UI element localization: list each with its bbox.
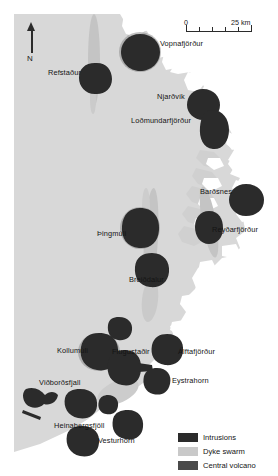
legend-label-central-volcano: Central volcano — [203, 461, 256, 470]
intrusion-heinabergsfjoll-small — [98, 395, 118, 414]
north-arrow-shaft-icon — [31, 28, 33, 53]
map-label-vesturhorn: Vesturhorn — [98, 437, 135, 444]
legend-item-central-volcano: Central volcano — [178, 459, 274, 472]
map-label-eystrahorn: Eystrahorn — [172, 377, 209, 384]
map-label-breiddalur: Breiðdalur — [129, 276, 164, 283]
legend-item-intrusions: Intrusions — [178, 431, 274, 444]
legend-swatch-intrusions — [178, 433, 198, 442]
intrusion-refstadur — [79, 63, 112, 94]
map-label-bardsnes: Barðsnes — [200, 188, 232, 195]
map-label-vopnafjordur: Vopnafjörður — [160, 40, 203, 47]
scale-bar: 0 25 km — [186, 18, 252, 38]
intrusion-vopnafjordur — [121, 34, 160, 71]
map-label-vidbordsfjall: Viðborðsfjall — [39, 379, 80, 386]
scale-bar-tick-1 — [199, 27, 200, 32]
intrusion-bardsnes — [229, 184, 264, 216]
scale-bar-max-label: 25 km — [231, 18, 251, 27]
north-arrow: N — [24, 22, 40, 68]
map-label-flugustadir: Flugustaðir — [112, 348, 150, 355]
map-label-heinabergsfjoll: Heinabergsfjöll — [54, 422, 104, 429]
legend-item-dyke-swarm: Dyke swarm — [178, 445, 274, 458]
map-figure: N 0 25 km Vopnafjörður Refstaður Njarðví… — [0, 0, 278, 476]
scale-bar-tick-0 — [186, 25, 187, 32]
map-label-kollumuli: Kollumúli — [57, 347, 88, 354]
map-label-alftafjordur: Álftafjörður — [178, 348, 215, 355]
legend-swatch-central-volcano — [178, 461, 198, 470]
intrusion-thingmuli — [122, 208, 159, 248]
map-label-reydarfjordur: Reyðarfjörður — [212, 226, 258, 233]
scale-bar-tick-4 — [238, 27, 239, 32]
intrusion-eystrahorn — [143, 368, 170, 395]
scale-bar-tick-2 — [212, 27, 213, 32]
scale-bar-tick-3 — [225, 27, 226, 32]
legend-swatch-dyke-swarm — [178, 447, 198, 456]
legend-label-intrusions: Intrusions — [203, 433, 236, 442]
map-label-lodmundarfjordur: Loðmundarfjörður — [131, 117, 191, 124]
map-legend: Intrusions Dyke swarm Central volcano — [178, 431, 274, 473]
map-label-njardvik: Njarðvík — [157, 93, 185, 100]
map-canvas — [0, 0, 278, 476]
scale-bar-tick-5 — [251, 25, 252, 32]
scale-bar-line — [186, 31, 252, 32]
north-arrow-label: N — [27, 54, 33, 63]
legend-label-dyke-swarm: Dyke swarm — [203, 447, 245, 456]
map-label-thingmuli: Þingmúli — [97, 230, 126, 237]
map-label-refstadur: Refstaður — [48, 69, 81, 76]
